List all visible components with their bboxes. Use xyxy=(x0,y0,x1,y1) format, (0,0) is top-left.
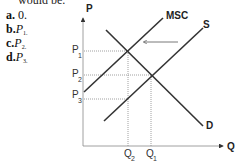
y-axis-label: P xyxy=(86,3,93,14)
demand-curve xyxy=(106,30,203,126)
supply-label: S xyxy=(203,19,210,30)
demand-label: D xyxy=(206,120,213,131)
q2-subscript: 2 xyxy=(131,155,135,162)
p1-subscript: 1 xyxy=(78,52,82,59)
msc-curve xyxy=(84,18,163,92)
msc-label: MSC xyxy=(166,10,188,21)
q1-subscript: 1 xyxy=(153,155,157,162)
supply-demand-diagram: P Q MSC S D P 1 P 2 P 3 Q 2 Q 1 xyxy=(0,0,239,164)
x-axis-label: Q xyxy=(227,141,235,152)
p3-subscript: 3 xyxy=(78,97,82,104)
p2-subscript: 2 xyxy=(78,76,82,83)
